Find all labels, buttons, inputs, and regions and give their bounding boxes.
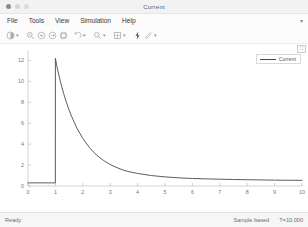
cursor-measure-icon [93, 31, 102, 40]
trigger-bolt-icon [133, 31, 142, 40]
toolbar-zoom-out[interactable] [26, 31, 35, 40]
toolbar-print[interactable]: ▾ [6, 31, 21, 40]
x-axis-tick-label: 7 [218, 189, 221, 195]
menu-overflow-icon[interactable]: ▾ [300, 17, 303, 24]
x-axis-tick-label: 9 [273, 189, 276, 195]
style-pencil-icon [144, 31, 153, 40]
toolbar-zoom-in[interactable] [37, 31, 46, 40]
layout-dropdown-icon[interactable]: ▾ [123, 33, 126, 38]
menu-bar: File Tools View Simulation Help ▾ [0, 14, 308, 27]
print-icon [6, 31, 15, 40]
legend-swatch-current [260, 59, 276, 60]
chart-series-current [28, 58, 302, 182]
y-axis-tick-label: 10 [18, 78, 24, 84]
menu-tools[interactable]: Tools [29, 17, 44, 24]
y-axis-tick-label: 12 [18, 57, 24, 63]
y-axis-tick-label: 6 [21, 120, 24, 126]
scope-window: Current File Tools View Simulation Help … [0, 0, 308, 227]
x-axis-tick-label: 4 [136, 189, 139, 195]
toolbar-pan[interactable] [48, 31, 57, 40]
x-axis-tick-label: 0 [27, 189, 30, 195]
undo-dropdown-icon[interactable]: ▾ [83, 33, 86, 38]
x-axis-tick-label: 6 [191, 189, 194, 195]
x-axis-tick-label: 5 [164, 189, 167, 195]
status-state: Ready [5, 217, 233, 223]
zoom-in-icon [37, 31, 46, 40]
toolbar-layout[interactable]: ▾ [113, 31, 128, 40]
x-axis-tick-label: 1 [54, 189, 57, 195]
layout-grid-icon [113, 31, 122, 40]
toolbar-trigger[interactable] [133, 31, 142, 40]
y-axis-tick-label: 8 [21, 99, 24, 105]
toolbar-fit-to-view[interactable] [59, 31, 68, 40]
status-bar: Ready Sample based T=10.000 [0, 212, 308, 227]
toolbar: ▾ ▾ [0, 27, 308, 44]
window-title: Current [0, 3, 308, 10]
menu-file[interactable]: File [7, 17, 18, 24]
x-axis-tick-label: 3 [109, 189, 112, 195]
chart-canvas[interactable]: 024681012012345678910 [0, 44, 308, 210]
y-axis-tick-label: 0 [21, 183, 24, 189]
y-axis-tick-label: 4 [21, 141, 24, 147]
cursor-dropdown-icon[interactable]: ▾ [103, 33, 106, 38]
status-time: T=10.000 [279, 217, 303, 223]
plot-area[interactable]: 024681012012345678910 ⛶ Current [0, 44, 308, 212]
chart-legend[interactable]: Current [256, 54, 301, 64]
menu-view[interactable]: View [55, 17, 69, 24]
pan-icon [48, 31, 57, 40]
x-axis-tick-label: 2 [81, 189, 84, 195]
zoom-out-icon [26, 31, 35, 40]
toolbar-style[interactable]: ▾ [144, 31, 159, 40]
y-axis-tick-label: 2 [21, 162, 24, 168]
title-bar: Current [0, 0, 308, 14]
toolbar-undo[interactable]: ▾ [73, 31, 88, 40]
x-axis-tick-label: 8 [246, 189, 249, 195]
undo-arrow-icon [73, 31, 82, 40]
toolbar-cursor-measure[interactable]: ▾ [93, 31, 108, 40]
fit-to-view-icon [59, 31, 68, 40]
legend-label-current: Current [279, 56, 296, 62]
plot-expand-button[interactable]: ⛶ [297, 45, 306, 53]
menu-help[interactable]: Help [122, 17, 136, 24]
print-dropdown-icon[interactable]: ▾ [16, 33, 19, 38]
x-axis-tick-label: 10 [299, 189, 305, 195]
status-mode: Sample based [233, 217, 269, 223]
style-dropdown-icon[interactable]: ▾ [154, 33, 157, 38]
menu-simulation[interactable]: Simulation [80, 17, 111, 24]
